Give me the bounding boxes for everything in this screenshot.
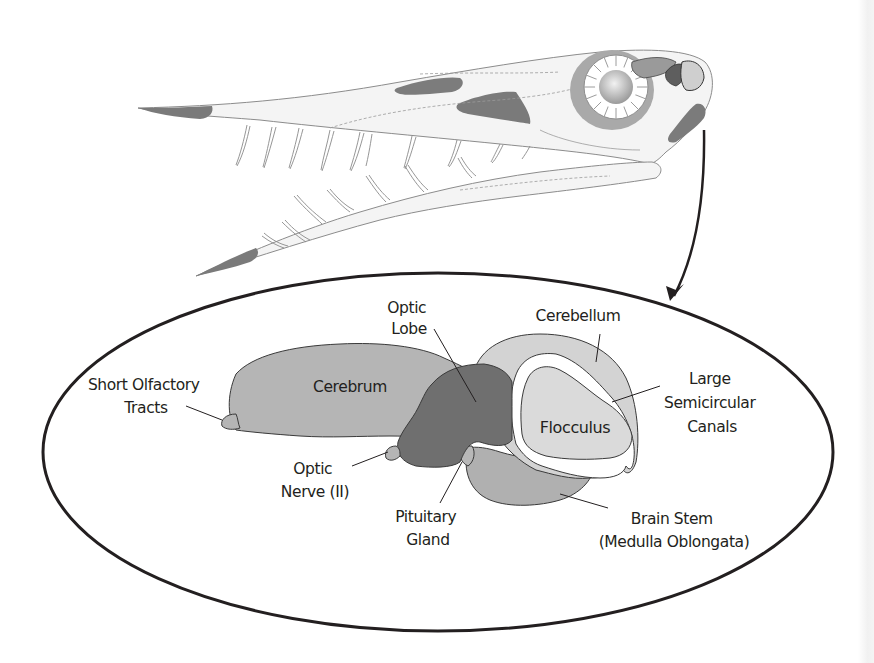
label-cerebellum: Cerebellum	[536, 307, 621, 325]
upper-beak-tip	[138, 106, 213, 119]
label-flocculus: Flocculus	[540, 418, 611, 437]
zoom-arrow	[666, 130, 704, 301]
pterosaur-skull	[138, 50, 712, 276]
eye-pupil	[599, 70, 633, 104]
page-edge-bleed	[858, 0, 874, 663]
pterosaur-brain-diagram: Short Olfactory Tracts Cerebrum Optic Lo…	[0, 0, 874, 663]
lower-beak-tip	[196, 248, 258, 276]
lower-jaw	[196, 162, 661, 276]
label-cerebrum: Cerebrum	[313, 378, 387, 396]
